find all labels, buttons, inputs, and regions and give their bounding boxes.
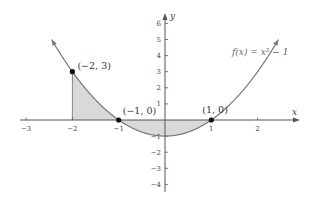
y-tick-label: −1	[151, 133, 161, 141]
x-tick-label: −2	[67, 125, 77, 133]
y-tick-label: −4	[151, 181, 162, 189]
y-tick-label: 1	[157, 100, 161, 108]
y-tick-label: 5	[157, 36, 161, 44]
function-plot: xy−3−2−112654321−1−2−3−4 (−2, 3)(−1, 0)(…	[0, 0, 312, 208]
x-tick-label: −3	[21, 125, 31, 133]
x-tick-label: 1	[209, 125, 213, 133]
curve-arrow-icon	[273, 39, 278, 45]
y-tick-label: −3	[151, 165, 161, 173]
x-axis-arrow-icon	[293, 118, 300, 123]
axes: xy−3−2−112654321−1−2−3−4	[20, 11, 300, 192]
y-tick-label: 4	[157, 52, 162, 60]
y-tick-label: 3	[157, 68, 161, 76]
x-tick-label: 2	[255, 125, 259, 133]
y-tick-label: 6	[157, 20, 162, 28]
point-label: (−2, 3)	[77, 60, 111, 71]
y-tick-label: 2	[157, 84, 161, 92]
y-tick-label: −2	[151, 149, 161, 157]
function-label: f(x) = x² − 1	[231, 47, 288, 57]
y-axis-arrow-icon	[163, 13, 168, 20]
y-axis-label: y	[169, 11, 176, 21]
x-tick-label: −1	[114, 125, 124, 133]
shaded-area	[72, 72, 211, 136]
data-point	[116, 117, 121, 122]
point-label: (−1, 0)	[123, 105, 157, 116]
data-point	[209, 117, 214, 122]
x-axis-label: x	[292, 107, 297, 117]
point-label: (1, 0)	[202, 104, 228, 115]
data-point	[70, 69, 75, 74]
curve-arrow-icon	[52, 39, 57, 45]
shaded-region	[72, 72, 211, 136]
